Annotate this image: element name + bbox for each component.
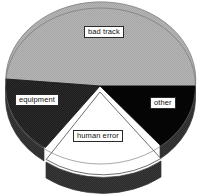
pie-chart-figure: bad track equipment other human error [0, 0, 204, 196]
slice-label-human-error: human error [73, 130, 123, 142]
bad-track-slice [6, 2, 196, 86]
slice-label-bad-track: bad track [84, 26, 124, 38]
slice-label-equipment: equipment [15, 94, 59, 106]
slice-label-other: other [150, 97, 176, 109]
